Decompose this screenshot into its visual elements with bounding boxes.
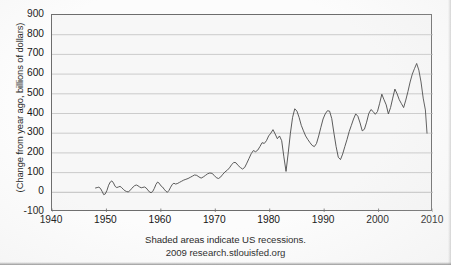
plot-svg — [52, 15, 433, 212]
plot-area — [51, 14, 432, 211]
y-tick-label-900: 900 — [0, 9, 44, 19]
data-line-change-from-year-ago — [96, 63, 427, 194]
x-tick-label-2010: 2010 — [407, 215, 451, 225]
y-tick-label-200: 200 — [0, 147, 44, 157]
y-tick-label-100: 100 — [0, 167, 44, 177]
caption-recessions: Shaded areas indicate US recessions. — [0, 234, 451, 245]
x-tick-label-1980: 1980 — [244, 215, 294, 225]
x-tick-label-1990: 1990 — [298, 215, 348, 225]
y-tick-label-800: 800 — [0, 29, 44, 39]
x-tick-label-2000: 2000 — [353, 215, 403, 225]
x-tick-label-1950: 1950 — [80, 215, 130, 225]
x-tick-label-1960: 1960 — [135, 215, 185, 225]
y-tick-label-300: 300 — [0, 127, 44, 137]
y-tick-label-700: 700 — [0, 48, 44, 58]
x-tick-label-1940: 1940 — [26, 215, 76, 225]
y-tick-label-400: 400 — [0, 108, 44, 118]
x-axis-tick-marks — [52, 209, 433, 213]
y-tick-label-0: 0 — [0, 186, 44, 196]
y-tick-label-500: 500 — [0, 88, 44, 98]
caption-source: 2009 research.stlouisfed.org — [0, 247, 451, 258]
y-tick-label-600: 600 — [0, 68, 44, 78]
chart-figure: (Change from year ago, billions of dolla… — [0, 0, 451, 265]
x-tick-label-1970: 1970 — [189, 215, 239, 225]
